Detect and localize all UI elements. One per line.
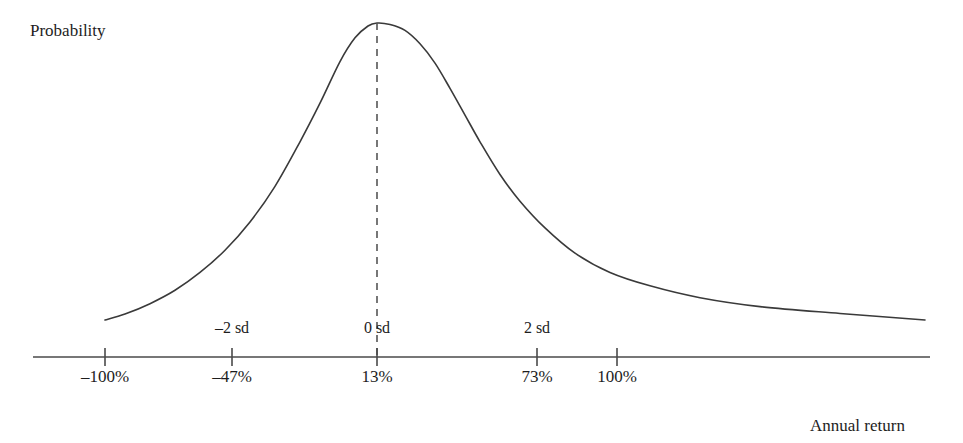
percent-tick-label: 73% xyxy=(521,368,552,385)
y-axis-label: Probability xyxy=(30,22,106,39)
probability-density-curve xyxy=(105,23,925,320)
percent-tick-label: 100% xyxy=(597,368,637,385)
sd-tick-label: 2 sd xyxy=(524,320,550,336)
percent-tick-label: 13% xyxy=(361,368,392,385)
distribution-plot xyxy=(0,0,963,443)
percent-tick-label: –47% xyxy=(212,368,252,385)
sd-tick-label: –2 sd xyxy=(215,320,249,336)
sd-tick-label: 0 sd xyxy=(364,320,390,336)
probability-distribution-figure: Probability –2 sd0 sd2 sd –100%–47%13%73… xyxy=(0,0,963,443)
x-axis-label: Annual return xyxy=(810,417,905,434)
percent-tick-label: –100% xyxy=(81,368,129,385)
